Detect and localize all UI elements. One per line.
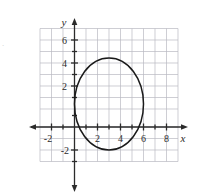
graph-figure: . [0, 0, 198, 196]
x-tick-label-4: 4 [118, 133, 123, 144]
x-tick-label-8: 8 [164, 133, 169, 144]
x-tick-label-2: 2 [95, 133, 100, 144]
y-tick-label-6: 6 [62, 35, 67, 46]
x-tick-label-6: 6 [141, 133, 146, 144]
x-tick-label--2: -2 [44, 133, 52, 144]
x-axis-label: x [180, 132, 186, 144]
y-axis-label: y [61, 16, 67, 28]
coordinate-plane: -2 2 4 6 8 6 4 2 -2 x y [0, 0, 198, 196]
grid-lines [40, 29, 178, 162]
y-tick-label-2: 2 [62, 81, 67, 92]
y-tick-label-4: 4 [62, 58, 67, 69]
y-tick-label--2: -2 [61, 145, 69, 156]
